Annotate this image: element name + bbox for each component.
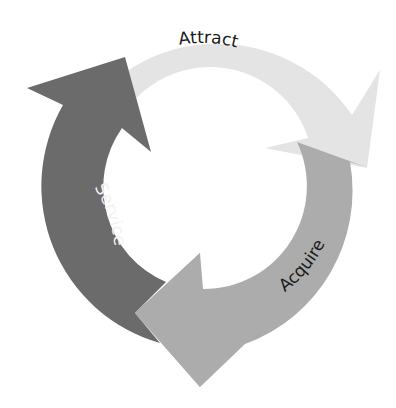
service-arrow	[27, 57, 166, 343]
cycle-diagram: Attract Acquire Service	[0, 0, 396, 408]
